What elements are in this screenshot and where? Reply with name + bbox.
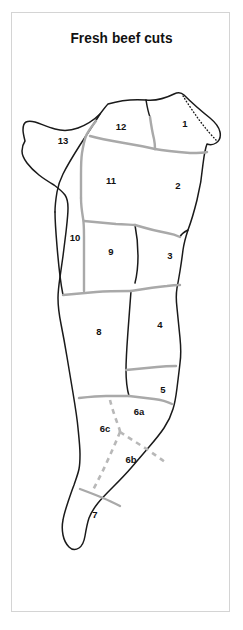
- cut-7-label: 7: [92, 509, 97, 520]
- cut-12-label: 12: [116, 121, 127, 132]
- cut-8-label: 8: [96, 326, 101, 337]
- page-root: Fresh beef cuts: [0, 0, 243, 630]
- cut-2-label: 2: [175, 180, 180, 191]
- beef-cuts-diagram: 123456a6b6c78910111213: [0, 0, 243, 630]
- cut-6c-label: 6c: [100, 423, 111, 434]
- cut-9-label: 9: [108, 246, 113, 257]
- cut-6a-label: 6a: [134, 406, 145, 417]
- carcass-outline-group: [22, 93, 220, 550]
- cut-1-label: 1: [182, 118, 188, 129]
- cut-6b-label: 6b: [125, 454, 136, 465]
- carcass-outline: [22, 93, 220, 550]
- cut-10-label: 10: [70, 232, 81, 243]
- cut-3-label: 3: [167, 250, 172, 261]
- cut-13-label: 13: [58, 135, 69, 146]
- cut-4-label: 4: [157, 319, 163, 330]
- cut-11-label: 11: [106, 175, 117, 186]
- cut-5-label: 5: [160, 384, 166, 395]
